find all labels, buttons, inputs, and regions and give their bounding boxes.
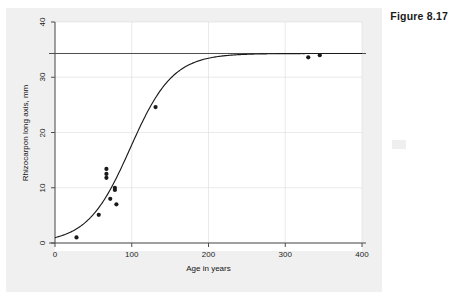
y-axis-title: Rhizocarpon long axis, mm <box>21 84 30 180</box>
x-axis-tick-label: 400 <box>355 250 368 259</box>
x-axis-title: Age in years <box>186 264 230 273</box>
chart-canvas <box>0 0 457 300</box>
x-axis-tick-label: 100 <box>125 250 138 259</box>
data-point <box>104 176 108 180</box>
data-point <box>104 167 108 171</box>
data-point <box>114 202 118 206</box>
data-point <box>108 197 112 201</box>
x-axis-tick-label: 200 <box>202 250 215 259</box>
y-axis-tick-label: 40 <box>38 18 47 27</box>
data-point <box>74 235 78 239</box>
gridlines-group <box>55 22 362 243</box>
y-axis-tick-label: 0 <box>38 241 47 245</box>
x-axis-tick-label: 0 <box>53 250 57 259</box>
x-axis-tick-label: 300 <box>279 250 292 259</box>
y-axis-tick-label: 20 <box>38 128 47 137</box>
figure-page: Figure 8.17 0100200300400010203040Age in… <box>0 0 457 300</box>
data-point <box>318 53 322 57</box>
data-point <box>97 213 101 217</box>
data-point <box>104 172 108 176</box>
data-point <box>306 55 310 59</box>
y-axis-tick-label: 10 <box>38 183 47 192</box>
reference-lines-group <box>49 53 366 243</box>
data-point <box>113 188 117 192</box>
y-axis-tick-label: 30 <box>38 73 47 82</box>
data-points-group <box>74 53 322 240</box>
data-point <box>153 105 157 109</box>
